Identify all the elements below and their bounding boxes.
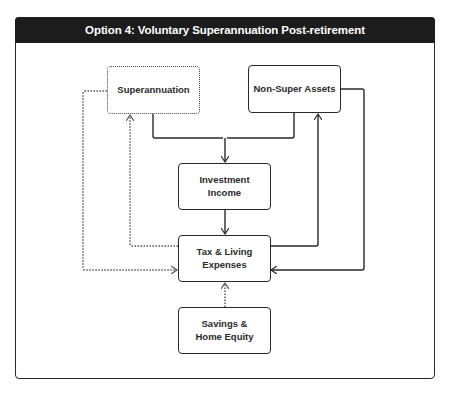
edge-tax-to-super — [130, 115, 178, 246]
node-investment-income: Investment Income — [178, 163, 271, 210]
node-label: Tax & Living Expenses — [195, 246, 255, 272]
node-non-super-assets: Non-Super Assets — [248, 65, 341, 113]
edge-nonsuper-to-investment — [227, 113, 294, 138]
node-label: Savings & Home Equity — [190, 318, 260, 344]
node-superannuation: Superannuation — [107, 66, 200, 114]
node-tax-living-expenses: Tax & Living Expenses — [178, 235, 271, 282]
node-label: Investment Income — [183, 174, 266, 200]
edge-super-to-investment — [153, 114, 223, 138]
node-savings-home-equity: Savings & Home Equity — [178, 307, 271, 354]
node-label: Superannuation — [117, 84, 189, 97]
node-label: Non-Super Assets — [254, 83, 336, 96]
